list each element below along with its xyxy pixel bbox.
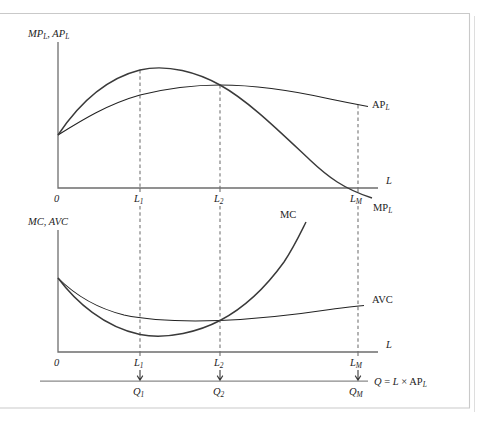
arrow-L2-to-Q2: [217, 370, 223, 380]
bottom-y-axis-label: MC, AVC: [27, 216, 69, 227]
mp-l-curve-label: MPL: [373, 202, 392, 215]
quantity-tick-label-Q2: Q2: [213, 386, 225, 399]
avc-curve: [58, 278, 364, 321]
quantity-tick-label-QM: QM: [349, 386, 364, 399]
top-tick-label-L1: L1: [133, 193, 144, 206]
ap-l-curve-label: APL: [372, 99, 390, 112]
bottom-tick-label-L1: L1: [133, 357, 144, 370]
top-tick-label-L2: L2: [213, 193, 224, 206]
economics-figure: MPL, APL L 0 L1 L2 LM APL MPL MC, AVC L: [0, 0, 480, 425]
mc-curve-label: MC: [280, 209, 296, 220]
bottom-chart-axes: [58, 230, 378, 352]
quantity-tick-label-Q1: Q1: [133, 386, 144, 399]
bottom-origin-label: 0: [54, 357, 60, 368]
top-chart: MPL, APL L 0 L1 L2 LM APL MPL: [27, 28, 392, 215]
top-x-axis-label: L: [385, 175, 392, 186]
top-origin-label: 0: [54, 193, 60, 204]
ap-l-curve: [58, 85, 368, 135]
top-tick-label-LM: LM: [349, 193, 363, 206]
top-chart-axes: [58, 42, 378, 188]
avc-curve-label: AVC: [372, 294, 393, 305]
bottom-chart: MC, AVC L 0 L1 L2 LM MC AVC: [27, 206, 393, 370]
quantity-axis: Q1 Q2 QM Q = L × APL: [40, 370, 427, 399]
bottom-tick-label-LM: LM: [349, 357, 363, 370]
bottom-x-axis-label: L: [385, 339, 392, 350]
arrow-LM-to-QM: [355, 370, 361, 380]
mp-l-curve: [58, 68, 372, 198]
arrow-L1-to-Q1: [137, 370, 143, 380]
top-y-axis-label: MPL, APL: [27, 28, 69, 41]
mc-curve: [58, 222, 306, 336]
bottom-tick-label-L2: L2: [213, 357, 224, 370]
quantity-axis-equation: Q = L × APL: [374, 376, 427, 389]
